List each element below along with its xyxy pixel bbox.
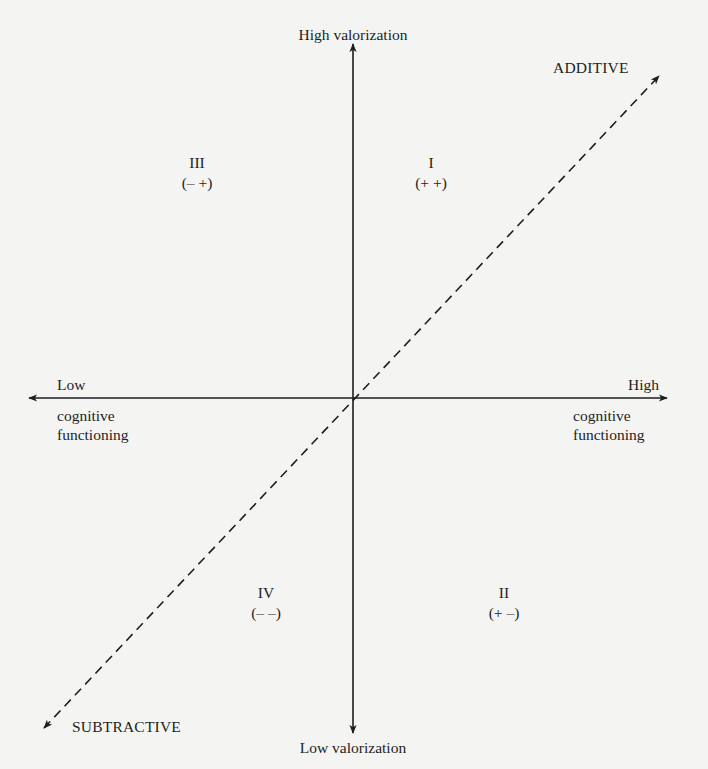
high-valorization-label: High valorization bbox=[299, 25, 408, 44]
high-functioning-label: functioning bbox=[573, 425, 644, 444]
low-cognitive-label: cognitive bbox=[57, 406, 115, 425]
high-cognitive-label: cognitive bbox=[573, 406, 631, 425]
additive-label: ADDITIVE bbox=[553, 58, 629, 77]
subtractive-label: SUBTRACTIVE bbox=[72, 717, 181, 736]
quadrant-i-numeral: I bbox=[428, 153, 433, 172]
quadrant-iv-numeral: IV bbox=[258, 583, 274, 602]
low-valorization-label: Low valorization bbox=[300, 738, 406, 757]
quadrant-diagram bbox=[0, 0, 708, 769]
quadrant-iii-numeral: III bbox=[189, 153, 205, 172]
quadrant-iv-signs: (– –) bbox=[251, 603, 281, 622]
quadrant-ii-numeral: II bbox=[499, 583, 509, 602]
quadrant-i-signs: (+ +) bbox=[415, 173, 447, 192]
quadrant-ii-signs: (+ –) bbox=[489, 603, 520, 622]
low-label: Low bbox=[57, 375, 85, 394]
low-functioning-label: functioning bbox=[57, 425, 128, 444]
quadrant-iii-signs: (– +) bbox=[182, 173, 213, 192]
diagonal-axis-additive-subtractive bbox=[44, 76, 659, 728]
high-label: High bbox=[628, 375, 659, 394]
